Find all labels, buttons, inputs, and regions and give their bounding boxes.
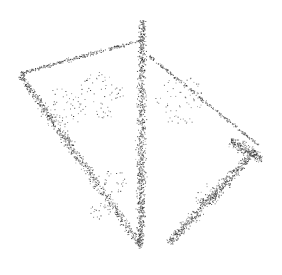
point-cloud-render — [0, 0, 282, 275]
point-cloud-svg — [0, 0, 282, 275]
